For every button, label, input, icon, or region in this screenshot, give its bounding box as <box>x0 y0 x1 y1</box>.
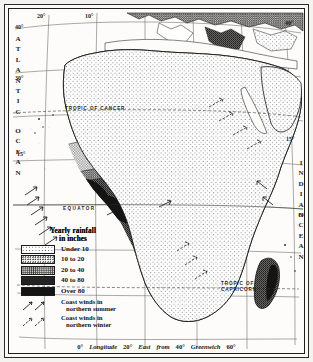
caption-greenwich: Greenwich <box>191 343 221 350</box>
graticule-label-top-10: 10° <box>85 13 93 19</box>
legend-label-20-to-40: 20 to 40 <box>61 266 84 275</box>
caption-deg-0: 0° <box>77 343 83 350</box>
legend-row-under-10: Under 10 <box>21 245 125 254</box>
tropic-of-capricorn-label-line1: TROPIC OF <box>221 281 254 286</box>
legend-label-under-10: Under 10 <box>61 245 89 254</box>
legend-swatch-40-to-80 <box>21 276 55 285</box>
map-inner-border: 20° 10° 40° 30° 15° 40° 15° ATLANTIC OCE… <box>8 8 305 354</box>
map-plate: 20° 10° 40° 30° 15° 40° 15° ATLANTIC OCE… <box>0 0 313 362</box>
legend-key-wind-summer-arrows <box>21 298 55 309</box>
graticule-label-left-40: 40° <box>15 24 23 30</box>
legend-label-wind-winter: Coast winds in northern winter <box>61 314 111 328</box>
legend-label-10-to-20: 10 to 20 <box>61 255 84 264</box>
legend-title-line1: Yearly rainfall <box>21 227 125 235</box>
legend-key-wind-winter-arrows <box>21 314 55 325</box>
legend-row-40-to-80: 40 to 80 <box>21 276 125 285</box>
graticule-label-right-40: 40° <box>285 20 293 26</box>
legend-label-over-80: Over 80 <box>61 287 85 296</box>
legend-swatch-under-10 <box>21 245 55 254</box>
ocean-label-atlantic-ocean: OCEAN <box>14 127 22 179</box>
ocean-label-atlantic: ATLANTIC <box>14 35 22 118</box>
legend-label-wind-winter-line2: northern winter <box>61 321 111 328</box>
ocean-label-indian-ocean: OCEAN <box>297 211 305 263</box>
map-outer-border: 20° 10° 40° 30° 15° 40° 15° ATLANTIC OCE… <box>4 4 309 358</box>
graticule-label-right-15: 15° <box>286 136 294 142</box>
legend-row-10-to-20: 10 to 20 <box>21 255 125 264</box>
legend-row-wind-summer: Coast winds in northern summer <box>21 298 125 312</box>
caption-from: from <box>156 343 169 350</box>
legend-title: Yearly rainfall in inches <box>21 227 125 243</box>
legend-label-wind-summer: Coast winds in northern summer <box>61 298 116 312</box>
legend-label-wind-summer-line1: Coast winds in <box>61 298 102 305</box>
legend-label-wind-summer-line2: northern summer <box>61 305 116 312</box>
legend-row-20-to-40: 20 to 40 <box>21 266 125 275</box>
graticule-label-top-20: 20° <box>37 13 45 19</box>
caption-longitude: Longitude <box>89 343 117 350</box>
caption-deg-20: 20° <box>123 343 132 350</box>
caption-deg-40: 40° <box>176 343 185 350</box>
wind-winter-arrow-icon <box>21 317 55 328</box>
tropic-of-capricorn-label-line2: CAPRICORN <box>221 287 257 292</box>
equator-label: EQUATOR <box>63 206 95 211</box>
legend-row-wind-winter: Coast winds in northern winter <box>21 314 125 328</box>
caption-deg-60: 60° <box>226 343 235 350</box>
legend-swatch-10-to-20 <box>21 255 55 264</box>
caption-east: East <box>138 343 150 350</box>
legend-label-40-to-80: 40 to 80 <box>61 276 84 285</box>
legend-row-over-80: Over 80 <box>21 287 125 296</box>
legend-title-line2: in inches <box>21 235 125 243</box>
wind-summer-arrow-icon <box>21 301 55 312</box>
tropic-of-cancer-label: TROPIC OF CANCER <box>65 106 125 111</box>
legend-swatch-20-to-40 <box>21 266 55 275</box>
legend-swatch-over-80 <box>21 287 55 296</box>
map-legend: Yearly rainfall in inches Under 10 10 to… <box>21 227 125 328</box>
bottom-longitude-caption: 0°Longitude20°Eastfrom40°Greenwich60° <box>9 343 304 350</box>
legend-label-wind-winter-line1: Coast winds in <box>61 314 102 321</box>
